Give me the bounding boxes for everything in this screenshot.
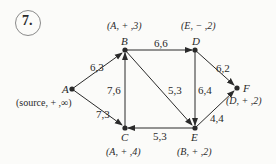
edge-E-F-label: 4,4 — [210, 113, 224, 124]
edge-E-C-label: 5,3 — [153, 131, 167, 142]
node-E-name: E — [191, 132, 198, 143]
edge-B-D-label: 6,6 — [154, 38, 168, 49]
node-F-name: F — [243, 83, 250, 94]
node-A-label: (source, + ,∞) — [16, 98, 72, 108]
node-C-name: C — [121, 132, 128, 143]
edge-A-B-label: 6,3 — [90, 62, 104, 73]
node-C-dot — [122, 125, 127, 130]
node-E-dot — [192, 125, 197, 130]
edge-D-F-label: 6,2 — [216, 63, 230, 74]
node-A-name: A — [62, 84, 69, 95]
node-F-label: (D, + ,2) — [226, 96, 262, 106]
node-D-dot — [192, 47, 197, 52]
edge-B-E-label: 5,3 — [168, 85, 182, 96]
node-B-label: (A, + ,3) — [107, 21, 142, 31]
node-D-name: D — [192, 36, 200, 47]
node-B-name: B — [121, 36, 128, 47]
node-B-dot — [122, 47, 127, 52]
node-E-label: (B, + ,2) — [177, 147, 212, 157]
node-D-label: (E, − ,2) — [181, 21, 216, 31]
node-F-dot — [234, 85, 239, 90]
edge-C-B-label: 7,6 — [107, 85, 121, 96]
edge-D-E-label: 6,4 — [198, 85, 212, 96]
node-C-label: (A, + ,4) — [106, 147, 141, 157]
edge-A-C-label: 7,3 — [96, 109, 110, 120]
node-A-dot — [69, 86, 74, 91]
